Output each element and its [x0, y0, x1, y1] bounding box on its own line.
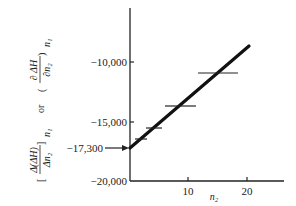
y-label-or: or — [35, 104, 46, 113]
left-bracket: [ — [35, 179, 46, 182]
y-label-part1-subscript: n₁ — [41, 129, 52, 137]
y-tick-label-10000: −10,000 — [91, 56, 128, 68]
x-tick-label-20: 20 — [242, 185, 254, 197]
x-axis-label: n₂ — [210, 191, 219, 202]
y-axis-label: [ Δ(ΔH) Δn₂ ] n₁ or ( ∂ ΔH ∂n₂ ) n₁ — [28, 39, 52, 182]
x-tick-label-10: 10 — [183, 185, 195, 197]
y-tick-label-20000: −20,000 — [91, 175, 128, 187]
y-label-partial-derivative: ( ∂ ΔH ∂n₂ ) n₁ — [28, 39, 52, 92]
y-tick-label-15000: −15,000 — [91, 116, 128, 128]
y-label-part1-denominator: Δn₂ — [41, 152, 52, 168]
y-label-part2-numerator: ∂ ΔH — [28, 59, 39, 80]
y-label-part2-denominator: ∂n₂ — [41, 63, 52, 77]
left-paren: ( — [36, 88, 48, 92]
intercept-label: −17,300 — [67, 142, 104, 154]
fitted-line — [130, 46, 249, 148]
y-label-finite-difference: [ Δ(ΔH) Δn₂ ] n₁ — [28, 129, 52, 182]
y-label-part2-subscript: n₁ — [41, 39, 52, 47]
chart-canvas: −10,000 −15,000 −20,000 −17,300 10 20 n₂… — [0, 0, 296, 206]
arrow-right-icon — [122, 145, 129, 151]
right-paren: ) — [36, 53, 48, 56]
y-label-part1-numerator: Δ(ΔH) — [28, 147, 40, 174]
right-bracket: ] — [35, 142, 46, 145]
